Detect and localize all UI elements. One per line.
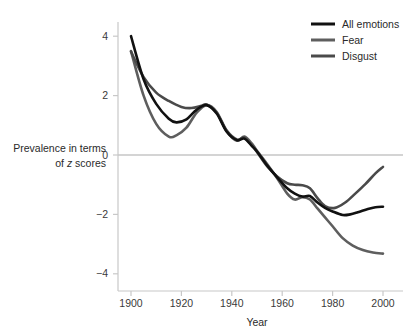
series-line-all-emotions <box>131 36 383 215</box>
y-axis-title-line-2: of z scores <box>55 157 106 169</box>
y-axis-title-line-1: Prevalence in terms <box>13 142 106 154</box>
series-layer <box>131 36 383 253</box>
x-tick-label: 1920 <box>170 297 194 309</box>
y-tick-label: 4 <box>102 30 108 42</box>
x-tick-label: 1940 <box>220 297 244 309</box>
y-tick-label: 2 <box>102 89 108 101</box>
chart-figure: 420−2−4190019201940196019802000 All emot… <box>0 0 412 334</box>
y-tick-label: −4 <box>96 267 108 279</box>
line-chart: 420−2−4190019201940196019802000 All emot… <box>0 0 412 334</box>
x-tick-label: 2000 <box>371 297 395 309</box>
x-tick-label: 1960 <box>271 297 295 309</box>
series-line-disgust <box>131 52 383 208</box>
axes-layer <box>113 22 403 296</box>
x-tick-label: 1900 <box>119 297 143 309</box>
legend-label-disgust: Disgust <box>342 50 377 62</box>
chart-legend: All emotionsFearDisgust <box>311 18 399 62</box>
x-axis-title: Year <box>246 316 268 328</box>
legend-label-all-emotions: All emotions <box>342 18 399 30</box>
legend-label-fear: Fear <box>342 34 364 46</box>
x-tick-label: 1980 <box>321 297 345 309</box>
y-tick-label: −2 <box>96 208 108 220</box>
